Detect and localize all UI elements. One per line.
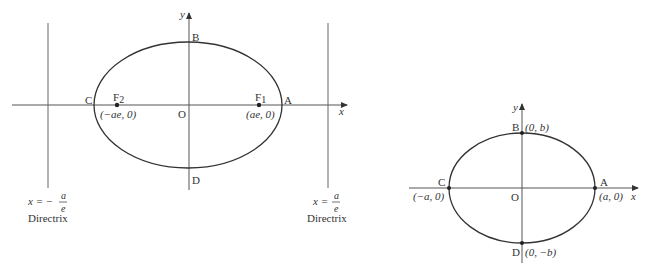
focus-f2-coords: (−ae, 0)	[100, 108, 136, 121]
svg-text:x = −: x = −	[27, 195, 53, 207]
point-c-dot	[447, 186, 451, 190]
focus-f1-coords: (ae, 0)	[246, 108, 275, 121]
point-d-coords: (0, −b)	[525, 246, 557, 259]
point-b-label: B	[192, 31, 199, 43]
left-ellipse-diagram: y x B D C A O F2 F1 (−ae, 0) (ae, 0) x =…	[12, 8, 347, 224]
x-axis-label: x	[630, 190, 636, 202]
point-b-dot	[520, 131, 524, 135]
point-a-label: A	[284, 94, 292, 106]
point-b-label: B	[512, 121, 519, 133]
point-d-label: D	[512, 246, 520, 258]
focus-f2-label: F2	[113, 91, 124, 105]
y-axis-label: y	[179, 8, 185, 20]
origin-label: O	[178, 108, 186, 120]
point-c-coords: (−a, 0)	[413, 190, 445, 203]
directrix-right-equation: x = a e Directrix	[307, 190, 347, 224]
origin-label: O	[511, 191, 519, 203]
point-d-label: D	[192, 174, 200, 186]
svg-text:x =: x =	[312, 195, 328, 207]
x-axis-label: x	[338, 105, 344, 117]
point-a-label: A	[600, 176, 608, 188]
point-b-coords: (0, b)	[525, 121, 549, 134]
point-c-label: C	[438, 176, 445, 188]
svg-text:a: a	[334, 190, 339, 201]
ellipse-diagrams: y x B D C A O F2 F1 (−ae, 0) (ae, 0) x =…	[0, 0, 645, 267]
point-a-dot	[593, 186, 597, 190]
directrix-right-label: Directrix	[307, 212, 347, 224]
directrix-left-equation: x = − a e Directrix	[27, 190, 68, 224]
right-ellipse-diagram: y x B (0, b) D (0, −b) C (−a, 0) A (a, 0…	[409, 101, 638, 263]
point-d-dot	[520, 241, 524, 245]
svg-text:a: a	[61, 190, 66, 201]
y-axis-label: y	[512, 101, 518, 113]
directrix-left-label: Directrix	[28, 212, 68, 224]
focus-f1-label: F1	[255, 91, 266, 105]
point-c-label: C	[85, 94, 92, 106]
point-a-coords: (a, 0)	[599, 190, 623, 203]
